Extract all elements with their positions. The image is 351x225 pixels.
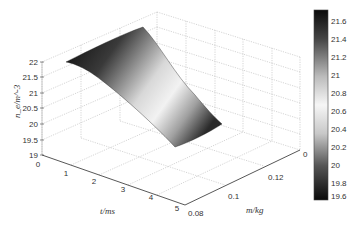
y-tick-label: 0.1 — [228, 192, 240, 201]
colorbar-tick: 20.6 — [331, 107, 347, 116]
colorbar-tick: 21.6 — [331, 17, 347, 26]
colorbar-tick: 21.2 — [331, 53, 347, 62]
z-tick-label: 19 — [29, 151, 38, 160]
colorbar-tick: 20.4 — [331, 125, 347, 134]
z-tick-label: 19.5 — [22, 136, 38, 145]
z-tick-label: 22 — [29, 58, 38, 67]
z-tick-label: 20.5 — [22, 104, 38, 113]
z-tick-label: 21 — [29, 89, 38, 98]
x-tick-label: 3 — [121, 185, 126, 194]
surface-plot: 22 21.5 21 20.5 20 19.5 19 0 1 2 3 4 5 0… — [0, 0, 351, 225]
colorbar-tick: 20.8 — [331, 89, 347, 98]
colorbar-tick: 20 — [331, 161, 340, 170]
x-tick-label: 5 — [175, 204, 180, 213]
x-tick-label: 0 — [36, 160, 41, 169]
x-tick-label: 4 — [149, 193, 154, 202]
z-axis-ticks: 22 21.5 21 20.5 20 19.5 19 — [22, 58, 44, 160]
colorbar-tick: 20.2 — [331, 143, 347, 152]
extra-label: 0 — [303, 150, 308, 159]
z-tick-label: 21.5 — [22, 73, 38, 82]
x-tick-label: 1 — [64, 169, 69, 178]
colorbar-tick: 21 — [331, 71, 340, 80]
colorbar-tick: 19.8 — [331, 179, 347, 188]
z-axis-label: n_e/m^-3 — [12, 84, 22, 118]
colorbar-tick: 19.6 — [331, 192, 347, 201]
y-tick-label: 0.08 — [188, 209, 204, 218]
x-tick-label: 2 — [92, 177, 97, 186]
colorbar: 21.6 21.4 21.2 21 20.8 20.6 20.4 20.2 20… — [314, 10, 347, 201]
x-axis-label: t/ms — [100, 206, 116, 216]
colorbar-tick: 21.4 — [331, 35, 347, 44]
y-tick-label: 0.12 — [268, 173, 284, 182]
z-tick-label: 20 — [29, 120, 38, 129]
y-axis-label: m/kg — [246, 205, 264, 215]
